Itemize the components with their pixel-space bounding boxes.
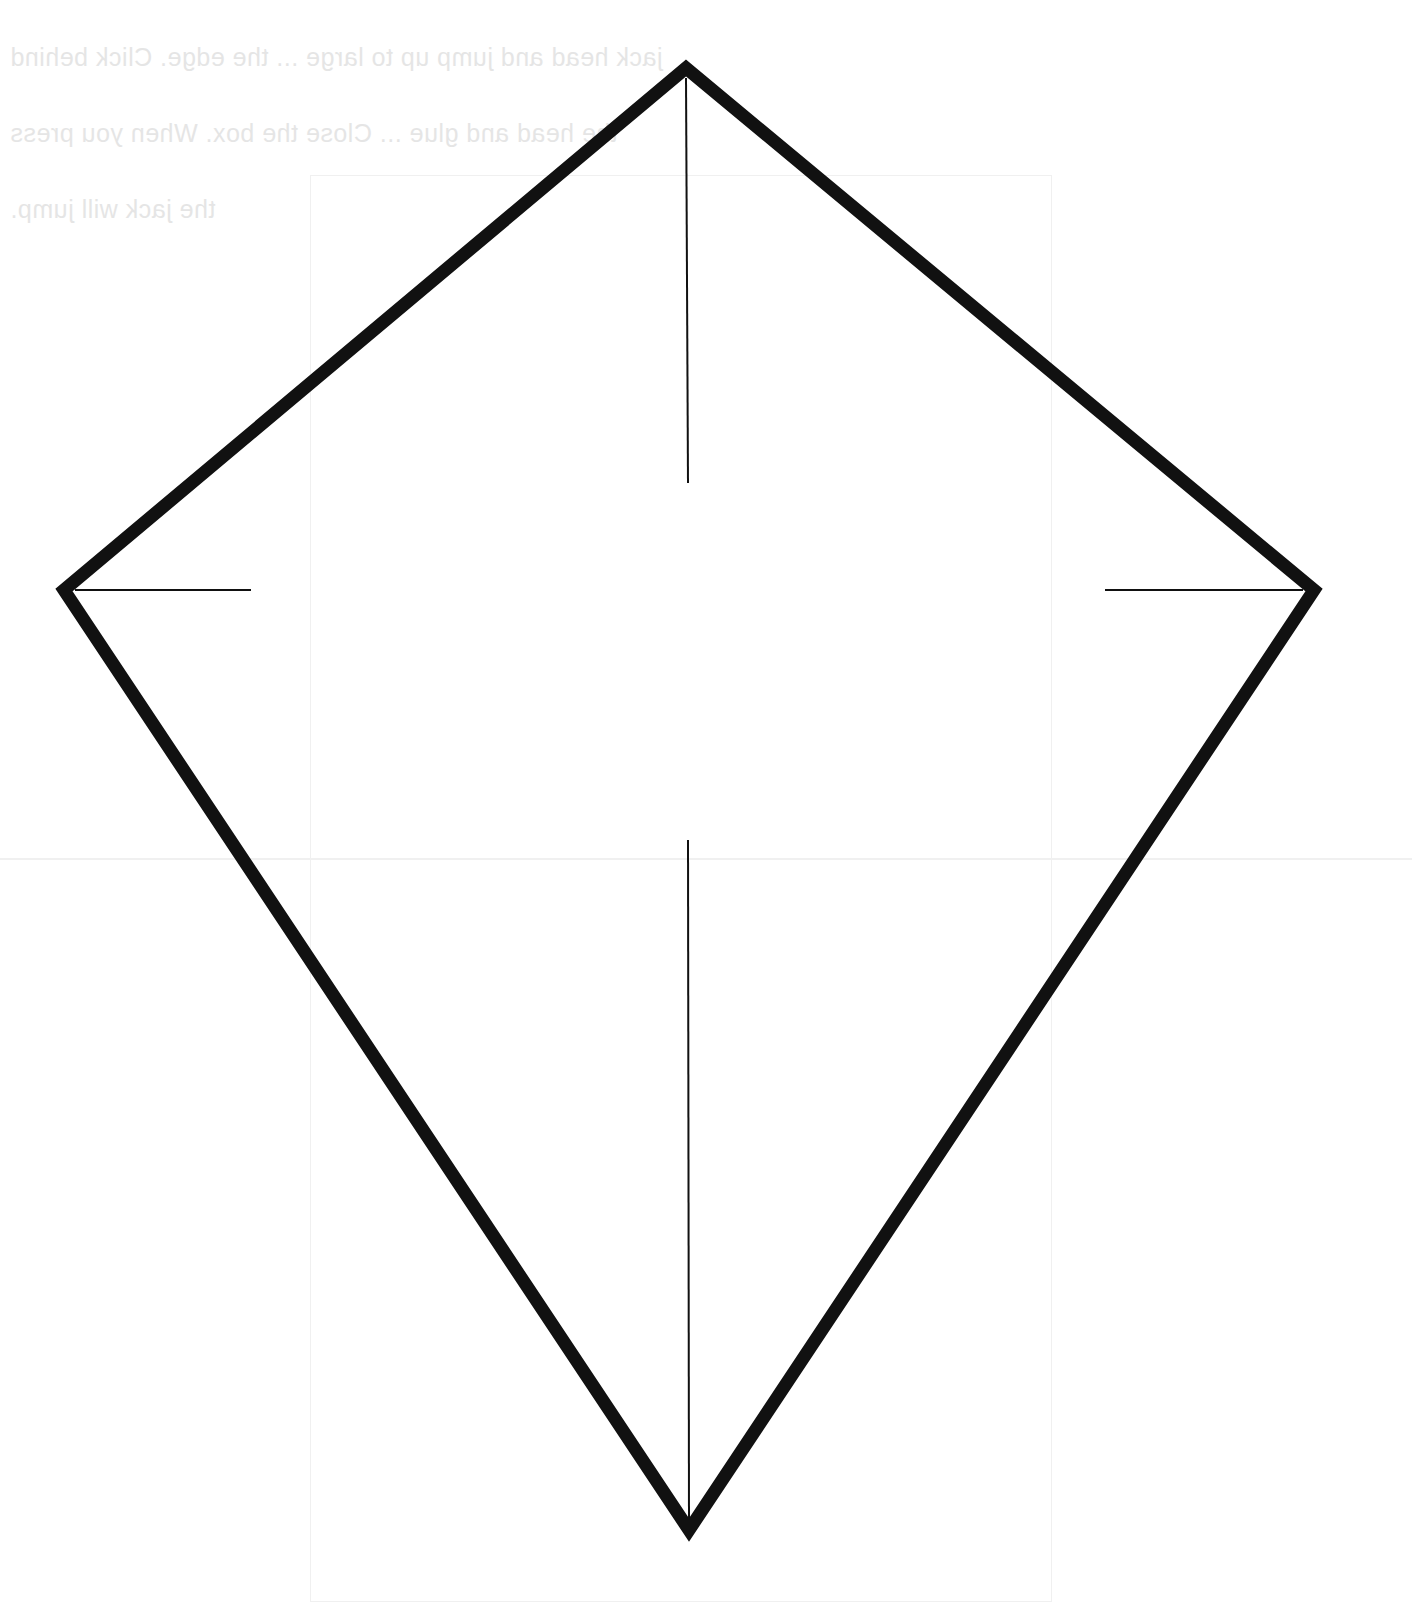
spine-lower-guide (688, 840, 689, 1520)
spine-upper-guide (686, 78, 688, 483)
